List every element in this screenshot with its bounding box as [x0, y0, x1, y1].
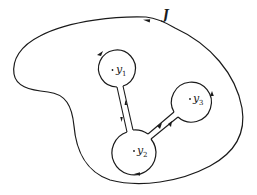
point-y3 — [189, 98, 191, 100]
point-y2 — [133, 150, 135, 152]
corridor-y1-y2-right — [123, 86, 133, 130]
label-y3-sub: 3 — [199, 99, 203, 107]
point-y1 — [112, 69, 114, 71]
arrow-icon — [120, 117, 123, 122]
contour-diagram: y 1 y 2 y 3 J — [0, 0, 257, 195]
arrow-icon — [210, 91, 214, 96]
circle-y3 — [171, 82, 211, 122]
outer-contour-J — [14, 17, 243, 184]
arrow-icon — [168, 121, 172, 127]
circle-y2 — [112, 130, 156, 175]
arrow-icon — [143, 18, 150, 22]
label-y1-sub: 1 — [122, 70, 126, 78]
arrow-icon — [97, 51, 103, 56]
corridor-y1-y2-left — [117, 87, 127, 132]
label-y2-sub: 2 — [143, 151, 147, 159]
contour-label-J: J — [161, 8, 170, 22]
